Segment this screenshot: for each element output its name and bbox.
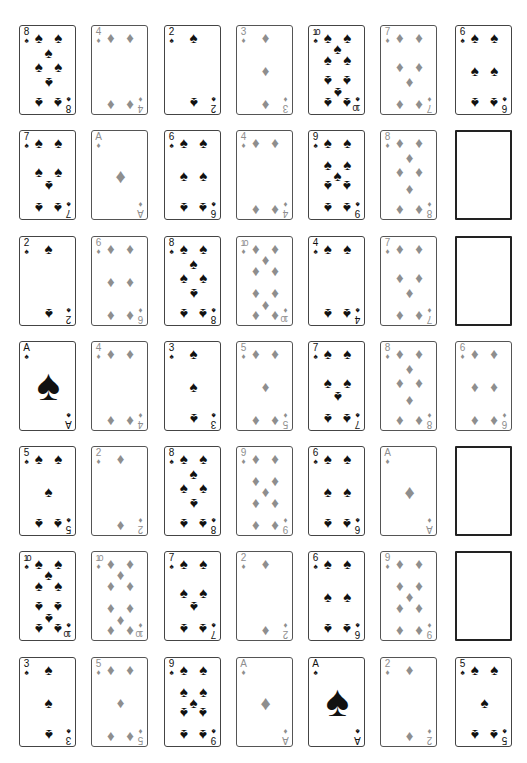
card-7-of-diamonds[interactable]: 7♦7♦♦♦♦♦♦♦♦ [380, 25, 437, 115]
spade-icon: ♠ [176, 270, 192, 285]
card-5-of-spades[interactable]: 5♠5♠♠♠♠♠♠ [19, 446, 76, 536]
card-3-of-spades[interactable]: 3♠3♠♠♠♠ [164, 341, 221, 431]
card-10-of-spades[interactable]: 10♠10♠♠♠♠♠♠♠♠♠♠♠ [308, 25, 365, 115]
card-6-of-spades[interactable]: 6♠6♠♠♠♠♠♠♠ [164, 130, 221, 220]
card-10-of-diamonds[interactable]: 10♦10♦♦♦♦♦♦♦♦♦♦♦ [236, 236, 293, 326]
card-rank: 10 [355, 103, 361, 113]
card-3-of-diamonds[interactable]: 3♦3♦♦♦♦ [236, 25, 293, 115]
card-6-of-spades[interactable]: 6♠6♠♠♠♠♠♠♠ [455, 25, 512, 115]
diamond-icon: ♦ [392, 30, 408, 45]
card-9-of-spades[interactable]: 9♠9♠♠♠♠♠♠♠♠♠♠ [308, 130, 365, 220]
card-10-of-spades[interactable]: 10♠10♠♠♠♠♠♠♠♠♠♠♠ [19, 551, 76, 641]
spade-icon: ♠ [167, 248, 176, 256]
card-5-of-spades[interactable]: 5♠5♠♠♠♠♠♠ [455, 657, 512, 747]
card-8-of-spades[interactable]: 8♠8♠♠♠♠♠♠♠♠♠ [164, 236, 221, 326]
card-6-of-spades[interactable]: 6♠6♠♠♠♠♠♠♠ [308, 446, 365, 536]
card-8-of-diamonds[interactable]: 8♦8♦♦♦♦♦♦♦♦♦ [380, 341, 437, 431]
diamond-icon: ♦ [267, 135, 283, 150]
diamond-icon: ♦ [392, 201, 408, 216]
card-index-tl: 6♦ [94, 238, 103, 256]
spade-icon: ♠ [339, 52, 355, 67]
card-index-tl: 9♦ [239, 448, 248, 466]
card-7-of-spades[interactable]: 7♠7♠♠♠♠♠♠♠♠ [164, 551, 221, 641]
spade-icon: ♠ [176, 517, 192, 532]
spade-icon: ♠ [31, 135, 47, 150]
card-index-br: 2♦ [281, 621, 290, 639]
empty-card-slot[interactable] [455, 236, 512, 326]
card-9-of-diamonds[interactable]: 9♦9♦♦♦♦♦♦♦♦♦♦ [236, 446, 293, 536]
card-index-tl: 5♠ [458, 659, 467, 677]
card-7-of-diamonds[interactable]: 7♦7♦♦♦♦♦♦♦♦ [380, 236, 437, 326]
card-4-of-diamonds[interactable]: 4♦4♦♦♦♦♦ [91, 25, 148, 115]
card-index-tl: 8♦ [383, 132, 392, 150]
diamond-icon: ♦ [103, 30, 119, 45]
card-4-of-diamonds[interactable]: 4♦4♦♦♦♦♦ [236, 130, 293, 220]
empty-card-slot[interactable] [455, 130, 512, 220]
spade-icon: ♠ [22, 248, 31, 256]
diamond-icon: ♦ [103, 96, 119, 111]
card-index-tl: 3♦ [239, 27, 248, 45]
card-8-of-spades[interactable]: 8♠8♠♠♠♠♠♠♠♠♠ [164, 446, 221, 536]
diamond-icon: ♦ [103, 346, 119, 361]
empty-card-slot[interactable] [455, 551, 512, 641]
card-4-of-spades[interactable]: 4♠4♠♠♠♠♠ [308, 236, 365, 326]
card-2-of-spades[interactable]: 2♠2♠♠♠ [164, 25, 221, 115]
card-2-of-spades[interactable]: 2♠2♠♠♠ [19, 236, 76, 326]
card-index-tl: 6♠ [458, 27, 467, 45]
spade-icon: ♠ [320, 622, 336, 637]
card-7-of-spades[interactable]: 7♠7♠♠♠♠♠♠♠♠ [19, 130, 76, 220]
spade-icon: ♠ [50, 96, 66, 111]
card-rank: 8 [427, 208, 433, 219]
card-rank: 8 [211, 314, 217, 325]
spade-icon: ♠ [176, 662, 192, 677]
diamond-icon: ♦ [258, 379, 274, 394]
card-rank: 5 [138, 735, 144, 746]
card-2-of-diamonds[interactable]: 2♦2♦♦♦ [236, 551, 293, 641]
card-rank: A [65, 419, 72, 430]
empty-card-slot[interactable] [455, 446, 512, 536]
card-9-of-diamonds[interactable]: 9♦9♦♦♦♦♦♦♦♦♦♦ [380, 551, 437, 641]
card-5-of-diamonds[interactable]: 5♦5♦♦♦♦♦♦ [91, 657, 148, 747]
card-4-of-diamonds[interactable]: 4♦4♦♦♦♦♦ [91, 341, 148, 431]
diamond-icon: ♦ [256, 693, 276, 713]
card-index-tl: 4♠ [311, 238, 320, 256]
card-index-br: A♦ [136, 200, 145, 218]
card-a-of-spades[interactable]: A♠A♠♠ [19, 341, 76, 431]
card-rank: 4 [138, 419, 144, 430]
card-6-of-diamonds[interactable]: 6♦6♦♦♦♦♦♦♦ [91, 236, 148, 326]
spade-icon: ♠ [22, 353, 31, 361]
spade-icon: ♠ [186, 287, 202, 302]
card-7-of-spades[interactable]: 7♠7♠♠♠♠♠♠♠♠ [308, 341, 365, 431]
card-a-of-diamonds[interactable]: A♦A♦♦ [236, 657, 293, 747]
diamond-icon: ♦ [267, 517, 283, 532]
spade-icon: ♠ [41, 307, 57, 322]
spade-icon: ♠ [339, 135, 355, 150]
card-9-of-spades[interactable]: 9♠9♠♠♠♠♠♠♠♠♠♠ [164, 657, 221, 747]
card-6-of-spades[interactable]: 6♠6♠♠♠♠♠♠♠ [308, 551, 365, 641]
card-a-of-spades[interactable]: A♠A♠♠ [308, 657, 365, 747]
diamond-icon: ♦ [239, 353, 248, 361]
spade-icon: ♠ [486, 96, 502, 111]
spade-icon: ♠ [195, 556, 211, 571]
spade-icon: ♠ [467, 662, 483, 677]
spade-icon: ♠ [22, 458, 31, 466]
card-rank: 4 [138, 103, 144, 114]
diamond-icon: ♦ [402, 392, 418, 407]
card-2-of-diamonds[interactable]: 2♦2♦♦♦ [380, 657, 437, 747]
card-2-of-diamonds[interactable]: 2♦2♦♦♦ [91, 446, 148, 536]
card-index-tl: 6♠ [311, 448, 320, 466]
card-6-of-diamonds[interactable]: 6♦6♦♦♦♦♦♦♦ [455, 341, 512, 431]
card-10-of-diamonds[interactable]: 10♦10♦♦♦♦♦♦♦♦♦♦♦ [91, 551, 148, 641]
card-5-of-diamonds[interactable]: 5♦5♦♦♦♦♦♦ [236, 341, 293, 431]
card-3-of-spades[interactable]: 3♠3♠♠♠♠ [19, 657, 76, 747]
card-index-tl: 2♠ [22, 238, 31, 256]
card-a-of-diamonds[interactable]: A♦A♦♦ [380, 446, 437, 536]
card-a-of-diamonds[interactable]: A♦A♦♦ [91, 130, 148, 220]
diamond-icon: ♦ [458, 353, 467, 361]
card-8-of-diamonds[interactable]: 8♦8♦♦♦♦♦♦♦♦♦ [380, 130, 437, 220]
card-8-of-spades[interactable]: 8♠8♠♠♠♠♠♠♠♠♠ [19, 25, 76, 115]
diamond-icon: ♦ [103, 274, 119, 289]
diamond-icon: ♦ [383, 563, 392, 571]
card-rank: 10 [138, 629, 144, 639]
spade-icon: ♠ [186, 96, 202, 111]
